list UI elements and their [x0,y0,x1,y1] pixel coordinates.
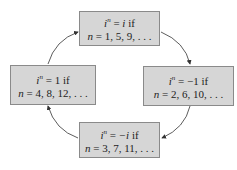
box-top: in = i if n = 1, 5, 9, . . . [79,11,160,46]
box-right-condition: n = 2, 6, 10, . . . [154,88,223,101]
box-left-equation: in = 1 if [36,71,69,87]
box-bottom: in = −i if n = 3, 7, 11, . . . [79,122,160,158]
box-left: in = 1 if n = 4, 8, 12, . . . [10,65,96,105]
power-of-i-cycle-diagram: in = i if n = 1, 5, 9, . . . in = −1 if … [0,0,237,170]
arrow-bottom-to-left [48,106,78,138]
arrow-right-to-bottom [162,106,190,138]
arrow-left-to-top [48,32,78,64]
box-left-condition: n = 4, 8, 12, . . . [18,87,87,100]
box-right: in = −1 if n = 2, 6, 10, . . . [143,66,234,106]
box-top-equation: in = i if [104,14,135,30]
box-bottom-condition: n = 3, 7, 11, . . . [85,142,154,155]
box-top-condition: n = 1, 5, 9, . . . [88,30,152,43]
arrow-top-to-right [161,32,190,64]
box-bottom-equation: in = −i if [100,126,138,142]
box-right-equation: in = −1 if [169,72,208,88]
